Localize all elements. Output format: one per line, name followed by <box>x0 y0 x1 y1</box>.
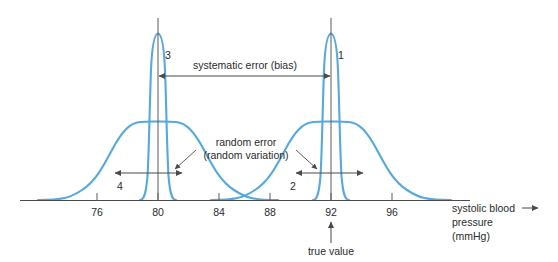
curve-label-4: 4 <box>117 180 123 192</box>
systematic-error-label: systematic error (bias) <box>193 59 297 71</box>
axis-title-line2: pressure <box>452 216 493 228</box>
diagram-canvas: 76 80 84 88 92 96 systematic error (bias… <box>0 0 558 262</box>
error-diagram-figure: 76 80 84 88 92 96 systematic error (bias… <box>0 0 558 262</box>
tick-label-76: 76 <box>91 206 103 218</box>
tick-label-92: 92 <box>325 206 337 218</box>
tick-label-88: 88 <box>264 206 276 218</box>
tick-label-96: 96 <box>386 206 398 218</box>
random-error-leader-right <box>296 150 317 169</box>
random-error-leader-left <box>175 150 196 169</box>
curve-label-2: 2 <box>290 180 296 192</box>
tick-label-84: 84 <box>213 206 225 218</box>
true-value-label: true value <box>308 245 354 257</box>
curve-label-3: 3 <box>165 49 171 61</box>
axis-title-line3: (mmHg) <box>452 230 490 242</box>
random-error-label-line1: random error <box>216 136 277 148</box>
tick-label-80: 80 <box>152 206 164 218</box>
axis-title-line1: systolic blood <box>452 202 515 214</box>
random-error-label-line2: (random variation) <box>203 149 288 161</box>
curve-label-1: 1 <box>338 49 344 61</box>
